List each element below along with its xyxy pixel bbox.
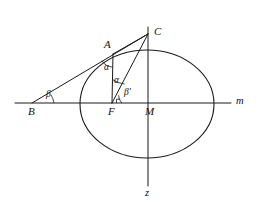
angle-label-beta-prime: β′ [124, 88, 131, 98]
ellipse-curve [80, 50, 214, 158]
axis-label-z: z [145, 188, 149, 199]
point-label-f: F [108, 106, 115, 117]
angle-arc-beta [51, 95, 54, 103]
point-label-m: M [145, 106, 154, 117]
point-label-a: A [104, 39, 111, 50]
angle-label-alpha-at-f: α [114, 76, 119, 86]
point-label-c: C [154, 26, 161, 37]
axis-label-m: m [236, 96, 244, 107]
angle-label-alpha-at-a: α [104, 63, 109, 73]
angle-label-beta: β [46, 90, 51, 100]
geometry-figure: B F M A C m z β α α β′ [0, 0, 256, 203]
point-label-b: B [28, 106, 35, 117]
segment-af [112, 54, 113, 103]
diagram-canvas [0, 0, 256, 203]
